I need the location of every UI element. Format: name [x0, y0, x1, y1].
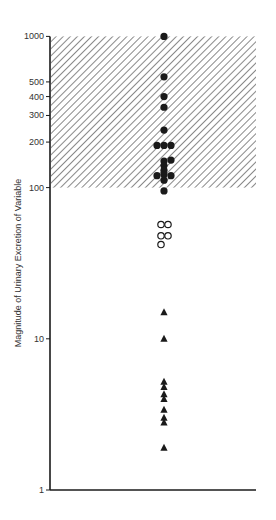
triangle-marker — [160, 406, 167, 413]
y-tick-label: 1000 — [24, 31, 44, 41]
open-circle-marker — [158, 233, 164, 239]
filled-circle-marker — [160, 187, 167, 194]
filled-circle-marker — [167, 172, 174, 179]
filled-circle-marker — [160, 127, 167, 134]
y-tick-label: 200 — [29, 137, 44, 147]
filled-circle-marker — [153, 172, 160, 179]
y-tick-label: 400 — [29, 92, 44, 102]
y-tick-label: 100 — [29, 183, 44, 193]
filled-circle-marker — [160, 142, 167, 149]
triangle-marker — [160, 444, 167, 451]
filled-circle-marker — [160, 33, 167, 40]
y-axis-label: Magnitude of Urinary Excretion of Variab… — [13, 179, 23, 347]
y-tick-label: 300 — [29, 110, 44, 120]
triangle-marker — [160, 335, 167, 342]
filled-circle-marker — [160, 104, 167, 111]
open-circle-marker — [158, 241, 164, 247]
reference-range-hatch — [51, 36, 256, 187]
filled-circle-marker — [167, 142, 174, 149]
open-circle-marker — [158, 221, 164, 227]
triangle-marker — [160, 308, 167, 315]
filled-circle-marker — [167, 157, 174, 164]
open-circle-marker — [165, 221, 171, 227]
filled-circle-marker — [160, 73, 167, 80]
y-tick-label: 10 — [34, 334, 44, 344]
y-tick-label: 500 — [29, 77, 44, 87]
y-tick-label: 1 — [39, 485, 44, 495]
filled-circle-marker — [160, 177, 167, 184]
hatch-rect — [51, 36, 256, 187]
open-circle-marker — [165, 233, 171, 239]
filled-circle-marker — [153, 142, 160, 149]
y-axis-ticks: 1101002003004005001000 — [24, 31, 50, 495]
scatter-chart: 1101002003004005001000 Magnitude of Urin… — [0, 0, 276, 520]
filled-circle-marker — [160, 93, 167, 100]
